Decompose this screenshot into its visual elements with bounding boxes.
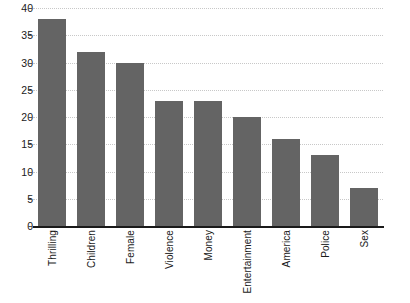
x-tick-label: Police xyxy=(305,230,344,303)
x-axis-labels: ThrillingChildrenFemaleViolenceMoneyEnte… xyxy=(33,230,383,303)
bar xyxy=(194,101,222,226)
bar-series xyxy=(33,8,383,226)
x-tick-label-text: Children xyxy=(86,230,97,268)
x-tick-label-text: Police xyxy=(319,230,330,258)
x-tick-label-text: Money xyxy=(202,230,213,261)
x-tick-label: Children xyxy=(72,230,111,303)
x-tick-label: Female xyxy=(111,230,150,303)
x-tick-label: Sex xyxy=(344,230,383,303)
bar-chart: 0510152025303540 ThrillingChildrenFemale… xyxy=(0,0,410,303)
y-tick-mark xyxy=(28,226,32,227)
y-tick-mark xyxy=(28,199,32,200)
x-tick-label-text: Sex xyxy=(358,230,369,248)
x-tick-label: America xyxy=(266,230,305,303)
x-tick-label-text: Violence xyxy=(164,230,175,269)
y-tick-mark xyxy=(28,144,32,145)
bar xyxy=(155,101,183,226)
y-tick-mark xyxy=(28,172,32,173)
x-axis-line xyxy=(33,226,384,228)
bar xyxy=(311,155,339,226)
y-tick-mark xyxy=(28,8,32,9)
x-tick-label: Money xyxy=(189,230,228,303)
y-tick-mark xyxy=(28,63,32,64)
y-tick-mark xyxy=(28,117,32,118)
x-tick-label-text: Thrilling xyxy=(47,230,58,266)
y-tick-mark xyxy=(28,90,32,91)
bar xyxy=(38,19,66,226)
x-tick-label: Violence xyxy=(150,230,189,303)
x-tick-label-text: Female xyxy=(125,230,136,264)
x-tick-label-text: America xyxy=(280,230,291,267)
bar xyxy=(77,52,105,226)
bar xyxy=(233,117,261,226)
bar xyxy=(272,139,300,226)
x-tick-label: Thrilling xyxy=(33,230,72,303)
y-tick-mark xyxy=(28,35,32,36)
y-axis: 0510152025303540 xyxy=(0,8,33,226)
bar xyxy=(350,188,378,226)
x-tick-label: Entertainment xyxy=(227,230,266,303)
bar xyxy=(116,63,144,227)
x-tick-label-text: Entertainment xyxy=(241,230,252,294)
